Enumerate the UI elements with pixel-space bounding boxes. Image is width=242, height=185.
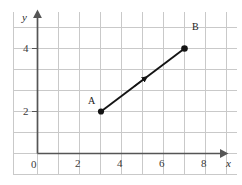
- x-tick-label-2: 2: [75, 158, 81, 169]
- x-tick-label-4: 4: [117, 158, 123, 169]
- x-tick-label-0: 0: [31, 159, 37, 170]
- y-tick-label-2: 2: [23, 106, 29, 117]
- point-a-label: A: [88, 96, 95, 106]
- point-b-dot: [181, 45, 188, 52]
- point-b-label: B: [192, 22, 199, 32]
- x-axis-name-label: x: [226, 158, 231, 169]
- x-tick-label-6: 6: [159, 158, 165, 169]
- y-axis-name-label: y: [22, 12, 27, 23]
- vector-midpoint-arrow: [134, 78, 145, 86]
- grid-vertical-lines: [14, 12, 227, 175]
- grid-horizontal-lines: [13, 28, 237, 175]
- y-tick-label-4: 4: [23, 43, 29, 54]
- point-a-dot: [98, 108, 104, 114]
- coordinate-grid-figure: 0 2 4 6 8 2 4 x y A B: [0, 0, 242, 185]
- x-tick-label-8: 8: [201, 158, 207, 169]
